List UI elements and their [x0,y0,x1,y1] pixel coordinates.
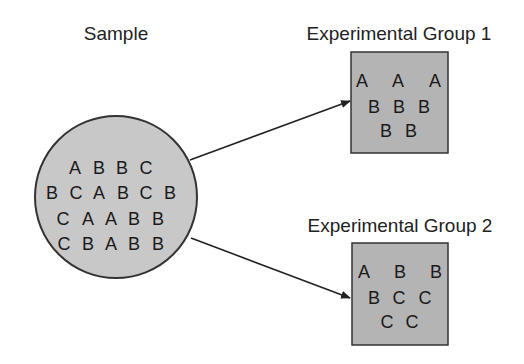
group-1-label: Experimental Group 1 [307,23,492,44]
sample-population: A B B C B C A B C B C A A B B C B A B B [35,116,197,278]
diagram-canvas: Sample A B B C B C A B C B C A A B B C B… [0,0,524,364]
sample-item: B [128,234,140,254]
experimental-group-2: A B B B C C C C [352,243,448,345]
group-1-item: B [418,97,430,117]
sample-item: C [58,234,71,254]
sample-label: Sample [84,23,148,44]
sample-item: B [46,183,58,203]
sample-item: A [93,183,105,203]
sample-item: C [57,209,70,229]
arrow-to-group-2 [191,238,350,298]
group-1-item: A [429,71,441,91]
sample-item: A [105,209,117,229]
group-2-label: Experimental Group 2 [308,215,493,236]
group-1-item: B [405,121,417,141]
sample-item: C [140,158,153,178]
experimental-group-1: A A A B B B B B [351,52,448,153]
sample-item: A [69,158,81,178]
group-2-item: C [419,288,432,308]
sample-item: B [117,183,129,203]
group-2-item: B [394,262,406,282]
sample-item: B [152,234,164,254]
group-1-item: A [356,71,368,91]
sample-item: C [140,183,153,203]
sample-item: B [164,183,176,203]
sample-item: B [152,209,164,229]
group-2-item: A [358,262,370,282]
group-1-item: B [368,97,380,117]
sample-item: B [116,158,128,178]
sample-item: C [70,183,83,203]
group-1-item: B [380,121,392,141]
arrow-to-group-1 [190,101,350,160]
group-2-item: B [430,262,442,282]
group-1-item: B [393,97,405,117]
group-2-item: C [406,312,419,332]
sample-item: A [82,209,94,229]
sample-item: B [82,234,94,254]
sample-item: B [93,158,105,178]
sample-item: B [128,209,140,229]
group-1-item: A [392,71,404,91]
group-2-item: C [381,312,394,332]
sample-item: A [105,234,117,254]
group-2-item: B [368,288,380,308]
group-2-item: C [393,288,406,308]
